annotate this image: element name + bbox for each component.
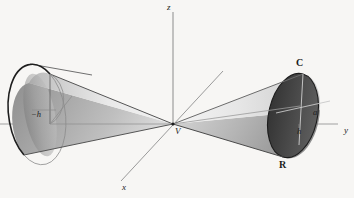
radius-label-a: a: [313, 108, 317, 117]
point-c-label: C: [296, 58, 303, 68]
neg-height-label: −h: [31, 110, 41, 119]
x-axis-label: x: [122, 183, 126, 192]
cone-figure-svg: [0, 0, 354, 198]
height-label-h: h: [297, 127, 301, 136]
z-axis-label: z: [167, 3, 171, 12]
y-axis-label: y: [344, 126, 348, 135]
right-cone: [173, 73, 330, 158]
point-r-label: R: [279, 160, 286, 170]
cone-figure: z y x V C R a h −h: [0, 0, 354, 198]
vertex-label: V: [175, 127, 181, 136]
